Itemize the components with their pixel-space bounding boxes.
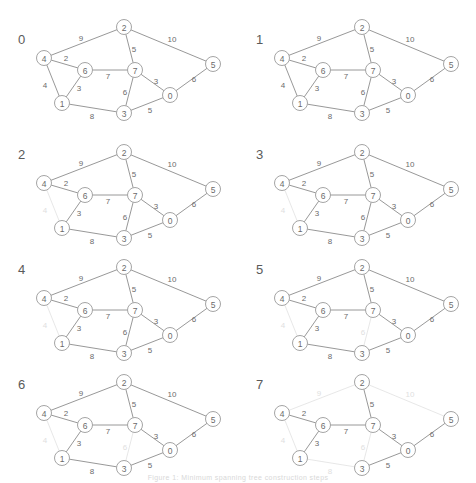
graph-node: 2 (355, 375, 370, 390)
graph-edge (47, 190, 59, 221)
edge-weight-label: 7 (106, 427, 111, 436)
graph-node: 4 (37, 291, 52, 306)
graph-node: 2 (355, 20, 370, 35)
graph-node-label: 7 (133, 66, 138, 76)
graph-edge (51, 30, 117, 56)
graph-node: 3 (117, 106, 132, 121)
edge-weight-label: 8 (90, 352, 95, 361)
graph-node: 3 (355, 346, 370, 361)
graph-node: 1 (55, 221, 70, 236)
edge-weight-label: 6 (123, 88, 128, 97)
edge-weight-label: 3 (315, 324, 320, 333)
graph-edge (289, 30, 355, 56)
graph-node-label: 5 (211, 185, 216, 195)
graph-node-label: 0 (406, 331, 411, 341)
edge-weight-label: 2 (64, 179, 69, 188)
mst-step-panel: 9105273643658245670136 (0, 370, 238, 483)
edge-weight-label: 8 (90, 112, 95, 121)
edge-weight-label: 5 (148, 346, 153, 355)
graph-node-label: 6 (83, 306, 88, 316)
graph-node: 6 (316, 303, 331, 318)
edge-weight-label: 2 (302, 294, 307, 303)
graph-edge (47, 420, 59, 451)
step-index-label: 4 (18, 263, 25, 276)
edge-weight-label: 2 (302, 179, 307, 188)
graph-node: 3 (117, 231, 132, 246)
edge-weight-label: 7 (344, 312, 349, 321)
step-index-label: 2 (18, 148, 25, 161)
graph-canvas: 910527364365824567013 (0, 370, 238, 483)
graph-node-label: 3 (360, 234, 365, 244)
graph-node-label: 2 (122, 263, 127, 273)
graph-node: 6 (78, 303, 93, 318)
graph-node-label: 1 (298, 339, 303, 349)
mst-step-panel: 9105273643658245670135 (238, 255, 476, 370)
edge-weight-label: 6 (430, 75, 435, 84)
graph-node: 7 (128, 418, 143, 433)
graph-node-label: 0 (406, 446, 411, 456)
graph-node-label: 4 (42, 54, 47, 64)
graph-node-label: 1 (60, 224, 65, 234)
graph-node: 0 (401, 443, 416, 458)
graph-node-label: 4 (280, 54, 285, 64)
graph-node: 4 (275, 406, 290, 421)
edge-weight-label: 3 (392, 432, 397, 441)
edge-weight-label: 6 (192, 315, 197, 324)
graph-node-label: 4 (42, 179, 47, 189)
edge-weight-label: 4 (281, 321, 286, 330)
graph-node-label: 1 (298, 454, 303, 464)
graph-edge (285, 190, 297, 221)
edge-weight-label: 3 (392, 77, 397, 86)
figure-caption: Figure 1: Minimum spanning tree construc… (0, 474, 476, 481)
graph-canvas: 910527364365824567013 (238, 370, 476, 483)
graph-node-label: 6 (83, 421, 88, 431)
edge-weight-label: 5 (370, 285, 375, 294)
graph-edge (51, 270, 117, 296)
edge-weight-label: 9 (317, 274, 322, 283)
edge-weight-label: 10 (168, 35, 177, 44)
edge-weight-label: 6 (430, 315, 435, 324)
edge-weight-label: 4 (43, 206, 48, 215)
edge-weight-label: 6 (361, 213, 366, 222)
graph-node: 6 (316, 188, 331, 203)
edge-weight-label: 10 (406, 35, 415, 44)
edge-weight-label: 8 (328, 352, 333, 361)
graph-node: 1 (55, 451, 70, 466)
graph-node-label: 7 (371, 191, 376, 201)
graph-node-label: 1 (60, 99, 65, 109)
graph-node: 7 (366, 303, 381, 318)
graph-node-label: 0 (168, 216, 173, 226)
graph-node-label: 0 (406, 216, 411, 226)
mst-step-panel: 9105273643658245670133 (238, 140, 476, 255)
graph-node-label: 3 (122, 234, 127, 244)
graph-node: 5 (206, 57, 221, 72)
edge-weight-label: 3 (154, 77, 159, 86)
edge-weight-label: 8 (328, 237, 333, 246)
graph-node-label: 2 (360, 263, 365, 273)
graph-node-label: 5 (449, 415, 454, 425)
graph-canvas: 910527364365824567013 (238, 255, 476, 370)
graph-node-label: 2 (360, 378, 365, 388)
graph-edge (51, 155, 117, 181)
graph-node: 1 (293, 336, 308, 351)
mst-step-panel: 9105273643658245670130 (0, 0, 238, 140)
graph-node-label: 4 (42, 409, 47, 419)
graph-node-label: 0 (168, 91, 173, 101)
edge-weight-label: 4 (281, 81, 286, 90)
mst-step-grid: 9105273643658245670130910527364365824567… (0, 0, 476, 483)
graph-node: 4 (275, 51, 290, 66)
graph-node-label: 2 (122, 23, 127, 33)
edge-weight-label: 10 (168, 390, 177, 399)
graph-node-label: 3 (360, 464, 365, 474)
graph-node: 7 (366, 188, 381, 203)
graph-node: 7 (366, 63, 381, 78)
edge-weight-label: 3 (154, 432, 159, 441)
graph-edge (379, 314, 402, 330)
graph-edge (141, 429, 164, 445)
edge-weight-label: 9 (79, 34, 84, 43)
edge-weight-label: 10 (406, 160, 415, 169)
graph-node-label: 3 (122, 109, 127, 119)
graph-node: 6 (316, 418, 331, 433)
edge-weight-label: 2 (64, 409, 69, 418)
graph-edge (51, 385, 117, 411)
